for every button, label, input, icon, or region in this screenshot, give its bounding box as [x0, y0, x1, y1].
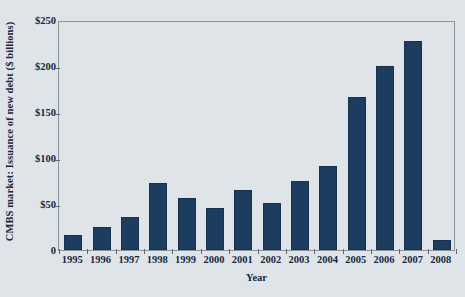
y-axis-tick-label: $200 — [18, 62, 56, 73]
bar-1997 — [121, 217, 139, 250]
x-axis-tick-label: 2008 — [421, 254, 461, 266]
x-axis-title: Year — [58, 272, 455, 283]
bar-1999 — [178, 198, 196, 250]
y-axis-tick-mark — [55, 68, 60, 69]
bar-2006 — [376, 66, 394, 250]
bar-2007 — [404, 41, 422, 250]
y-axis-title-text: CMBS market: Issuance of new debt ($ bil… — [5, 21, 16, 241]
y-axis-tick-mark — [55, 114, 60, 115]
bar-2004 — [319, 166, 337, 250]
y-axis-tick-label: $100 — [18, 154, 56, 165]
bar-2002 — [263, 203, 281, 250]
bar-2005 — [348, 97, 366, 250]
y-axis-tick-label: $150 — [18, 108, 56, 119]
bar-2001 — [234, 190, 252, 250]
y-axis-tick-label: $50 — [18, 200, 56, 211]
bar-1998 — [149, 183, 167, 250]
y-axis-tick-labels: 0$50$100$150$200$250 — [18, 0, 56, 297]
bar-2000 — [206, 208, 224, 250]
y-axis-tick-mark — [55, 206, 60, 207]
y-axis-tick-label: 0 — [18, 246, 56, 257]
y-axis-tick-mark — [55, 160, 60, 161]
y-axis-tick-label: $250 — [18, 16, 56, 27]
bar-1995 — [64, 235, 82, 250]
bars-layer — [59, 22, 454, 250]
chart-container: CMBS market: Issuance of new debt ($ bil… — [0, 0, 465, 297]
plot-area — [58, 21, 455, 251]
bar-2003 — [291, 181, 309, 250]
x-axis-tick-labels: 1995199619971998199920002001200220032004… — [58, 254, 455, 270]
bar-2008 — [433, 240, 451, 250]
bar-1996 — [93, 227, 111, 250]
y-axis-title: CMBS market: Issuance of new debt ($ bil… — [0, 0, 20, 262]
